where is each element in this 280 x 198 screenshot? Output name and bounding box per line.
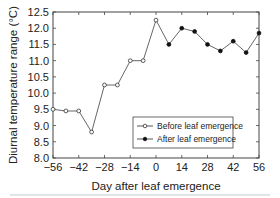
open-data-point [115, 83, 119, 87]
y-axis-label: Diurnal temperature range (°C) [7, 6, 19, 164]
legend-label-before: Before leaf emergence [157, 121, 243, 131]
y-tick-label: 11.5 [28, 38, 49, 50]
data-series [51, 18, 261, 134]
x-tick-label: 14 [176, 161, 188, 173]
filled-data-point [180, 26, 184, 30]
open-data-point [141, 59, 145, 63]
y-tick-label: 11.0 [28, 55, 49, 67]
filled-data-point [244, 51, 248, 55]
y-tick-label: 9.5 [34, 103, 49, 115]
open-data-point [103, 83, 107, 87]
x-tick-label: −56 [44, 161, 63, 173]
divider [10, 194, 270, 196]
series-line-1 [156, 20, 259, 53]
x-axis-label: Day after leaf emergence [91, 180, 220, 192]
x-tick-label: 0 [153, 161, 159, 173]
x-tick-label: −28 [95, 161, 114, 173]
y-axis-title: Diurnal temperature range (°C) [7, 6, 19, 164]
filled-data-point [167, 43, 171, 47]
open-data-point [128, 59, 132, 63]
x-tick-label: 28 [201, 161, 213, 173]
x-tick-label: 42 [227, 161, 239, 173]
x-tick-label: 56 [253, 161, 265, 173]
line-chart: Diurnal temperature range (°C) 8.08.59.0… [0, 0, 280, 198]
legend: Before leaf emergence After leaf emergen… [133, 117, 243, 148]
filled-data-point [231, 39, 235, 43]
x-tick-label: −14 [121, 161, 140, 173]
y-tick-label: 12.5 [28, 6, 49, 18]
x-tick-label: −42 [69, 161, 88, 173]
open-data-point [64, 109, 68, 113]
legend-label-after: After leaf emergence [157, 134, 236, 144]
series-line-0 [53, 20, 156, 132]
y-tick-label: 8.5 [34, 136, 49, 148]
y-tick-label: 12.0 [28, 22, 49, 34]
filled-data-point [218, 49, 222, 53]
filled-data-point [193, 30, 197, 34]
open-data-point [51, 107, 55, 111]
open-data-point [154, 18, 158, 22]
filled-circle-marker-icon [143, 137, 147, 141]
open-data-point [90, 130, 94, 134]
x-axis-ticks: −56−42−28−14014284256 [44, 12, 265, 173]
y-tick-label: 9.0 [34, 120, 49, 132]
filled-data-point [257, 31, 261, 35]
open-data-point [77, 109, 81, 113]
y-tick-label: 10.0 [28, 87, 49, 99]
open-circle-marker-icon [143, 124, 147, 128]
filled-data-point [206, 43, 210, 47]
y-tick-label: 10.5 [28, 71, 49, 83]
